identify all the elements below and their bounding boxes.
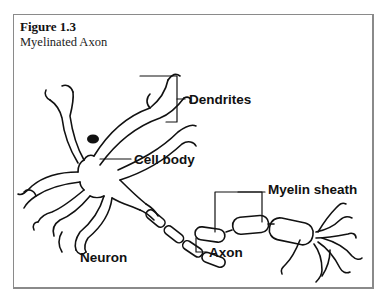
nucleus-shape — [87, 135, 99, 144]
label-cell-body: Cell body — [134, 152, 195, 167]
myelin-segments — [194, 215, 315, 247]
label-dendrites: Dendrites — [189, 92, 251, 107]
label-axon: Axon — [209, 245, 243, 260]
label-neuron: Neuron — [80, 250, 127, 265]
label-myelin-sheath: Myelin sheath — [268, 182, 357, 197]
neuron-diagram: Dendrites Cell body Myelin sheath Axon N… — [0, 0, 386, 300]
